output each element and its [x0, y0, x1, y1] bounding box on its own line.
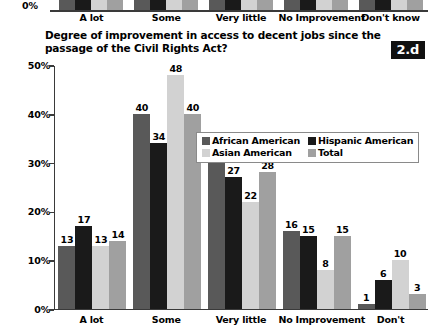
bar-value-label: 22 — [244, 190, 257, 201]
bar-column[interactable]: 15 — [300, 65, 317, 309]
bar[interactable] — [133, 114, 150, 309]
bar[interactable] — [317, 270, 334, 309]
remnant-category-label: Very little — [204, 12, 279, 23]
bar-column[interactable]: 16 — [283, 65, 300, 309]
x-axis-category-label: A lot — [54, 314, 129, 325]
bar-value-label: 34 — [152, 131, 165, 142]
remnant-bar — [209, 0, 225, 10]
bar[interactable] — [208, 163, 225, 309]
remnant-bar — [182, 0, 198, 10]
bar-value-label: 1 — [363, 292, 369, 303]
bar-value-label: 8 — [322, 258, 328, 269]
bar[interactable] — [392, 260, 409, 309]
bar[interactable] — [167, 75, 184, 309]
remnant-bar — [241, 0, 257, 10]
bar-column[interactable]: 14 — [109, 65, 126, 309]
remnant-category-label: No Improvement — [278, 12, 353, 23]
bar-group: 40344840 — [133, 65, 201, 309]
legend-swatch-icon — [308, 137, 316, 145]
y-axis-tick-label: 10% — [6, 255, 50, 266]
page-title: Degree of improvement in access to decen… — [45, 29, 385, 54]
bar-column[interactable]: 1 — [358, 65, 375, 309]
remnant-bar — [391, 0, 407, 10]
bar-column[interactable]: 30 — [208, 65, 225, 309]
bar[interactable] — [300, 236, 317, 309]
remnant-bar — [284, 0, 300, 10]
y-axis-tick-label: 50% — [6, 60, 50, 71]
x-axis-category-label: Some — [129, 314, 204, 325]
chart-legend: African AmericanHispanic AmericanAsian A… — [196, 132, 419, 163]
bar-column[interactable]: 15 — [334, 65, 351, 309]
bar[interactable] — [242, 202, 259, 309]
bar-value-label: 13 — [61, 234, 74, 245]
cropped-chart-remnant: 0% A lotSomeVery littleNo ImprovementDon… — [0, 0, 430, 26]
status-badge: 2.d — [391, 41, 425, 59]
bar-value-label: 10 — [394, 248, 407, 259]
bar-value-label: 15 — [336, 224, 349, 235]
x-axis-category-label: Don't — [353, 314, 428, 325]
bar[interactable] — [259, 172, 276, 309]
legend-label: Total — [318, 147, 343, 159]
bar-value-label: 16 — [285, 219, 298, 230]
bar-group: 13171314 — [58, 65, 126, 309]
bar[interactable] — [92, 246, 109, 309]
legend-item[interactable]: Asian American — [202, 147, 300, 159]
remnant-bar — [134, 0, 150, 10]
remnant-bar — [375, 0, 391, 10]
bar[interactable] — [58, 246, 75, 309]
remnant-bar — [75, 0, 91, 10]
bar-column[interactable]: 13 — [58, 65, 75, 309]
bar-column[interactable]: 28 — [259, 65, 276, 309]
x-axis-category-label: Very little — [204, 314, 279, 325]
bar-column[interactable]: 3 — [409, 65, 426, 309]
bar-chart: 0%10%20%30%40%50% 1317131440344840302722… — [0, 58, 430, 335]
bar-column[interactable]: 10 — [392, 65, 409, 309]
remnant-bar — [359, 0, 375, 10]
bar[interactable] — [334, 236, 351, 309]
bar-column[interactable]: 27 — [225, 65, 242, 309]
bar-column[interactable]: 40 — [184, 65, 201, 309]
remnant-bar-group — [284, 0, 348, 10]
bar-value-label: 14 — [112, 229, 125, 240]
bar-column[interactable]: 40 — [133, 65, 150, 309]
bar-value-label: 6 — [380, 268, 386, 279]
remnant-bar — [166, 0, 182, 10]
bar-value-label: 13 — [95, 234, 108, 245]
x-axis-category-label: No Improvement — [278, 314, 353, 325]
bar-column[interactable]: 22 — [242, 65, 259, 309]
bar[interactable] — [150, 143, 167, 309]
y-axis-tick-label: 30% — [6, 158, 50, 169]
bar-value-label: 48 — [169, 63, 182, 74]
remnant-bar-group — [359, 0, 423, 10]
bar[interactable] — [375, 280, 392, 309]
remnant-bar — [107, 0, 123, 10]
bar[interactable] — [225, 177, 242, 309]
bar[interactable] — [75, 226, 92, 309]
legend-label: Hispanic American — [318, 135, 413, 147]
remnant-bar — [316, 0, 332, 10]
remnant-category-label: Don't know — [353, 12, 428, 23]
bar[interactable] — [109, 241, 126, 309]
bar[interactable] — [409, 294, 426, 309]
bar-column[interactable]: 48 — [167, 65, 184, 309]
legend-item[interactable]: African American — [202, 135, 300, 147]
bar-value-label: 27 — [227, 165, 240, 176]
remnant-bar — [150, 0, 166, 10]
bar-column[interactable]: 6 — [375, 65, 392, 309]
y-axis-tick-label: 40% — [6, 109, 50, 120]
plot-area: 131713144034484030272228161581516103 — [54, 66, 428, 310]
legend-item[interactable]: Total — [308, 147, 413, 159]
legend-label: African American — [212, 135, 300, 147]
bar-column[interactable]: 13 — [92, 65, 109, 309]
bar[interactable] — [283, 231, 300, 309]
bar-group: 1615815 — [283, 65, 351, 309]
bar[interactable] — [358, 304, 375, 309]
bar-value-label: 17 — [78, 214, 91, 225]
bar-column[interactable]: 17 — [75, 65, 92, 309]
legend-swatch-icon — [202, 149, 210, 157]
bar-column[interactable]: 34 — [150, 65, 167, 309]
remnant-category-label: Some — [129, 12, 204, 23]
bar-column[interactable]: 8 — [317, 65, 334, 309]
remnant-bar — [91, 0, 107, 10]
legend-item[interactable]: Hispanic American — [308, 135, 413, 147]
